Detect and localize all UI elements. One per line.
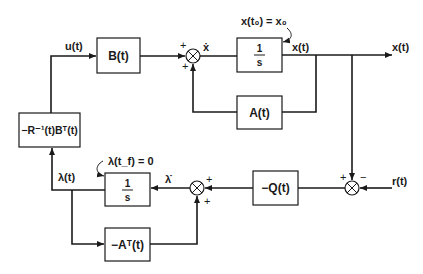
label-r: r(t) (392, 175, 408, 187)
block-Q-label: −Q(t) (261, 181, 289, 195)
wire-lambda-to-AT (72, 190, 104, 244)
label-x-inner: x(t) (292, 41, 309, 53)
label-xdot: ẋ (203, 41, 210, 53)
initial-condition-pointer (283, 28, 291, 42)
annotation-final-condition: λ(t_f) = 0 (108, 155, 154, 167)
annotation-initial-condition: x(t₀) = x₀ (241, 15, 287, 27)
block-AT-label: −Aᵀ(t) (111, 238, 144, 252)
wire-x-to-A (282, 55, 316, 112)
block-gain-label: −R⁻¹(t)Bᵀ(t) (21, 124, 77, 136)
sign-error-right: − (360, 171, 366, 183)
sign-costate-right: + (206, 173, 212, 185)
sign-top-left: + (180, 39, 186, 51)
label-lambda: λ(t) (58, 171, 75, 183)
sign-costate-bottom: + (204, 195, 210, 207)
costate-integrator-numerator: 1 (125, 178, 131, 189)
summing-junction-error (345, 181, 359, 195)
wire-gain-to-B (51, 56, 96, 113)
sign-error-top: + (340, 171, 346, 183)
block-A-label: A(t) (249, 106, 270, 120)
wire-AT-to-costate-sum (150, 196, 197, 244)
final-condition-pointer (97, 161, 104, 176)
summing-junction-costate (190, 181, 204, 195)
sign-top-bottom: + (182, 60, 188, 72)
label-lambdadot: λ̇ (165, 173, 172, 185)
costate-integrator-denominator: s (125, 192, 131, 203)
block-B-label: B(t) (108, 49, 129, 63)
wire-A-to-sum (193, 64, 237, 112)
state-integrator-denominator: s (257, 57, 263, 68)
block-diagram: u(t) B(t) + + ẋ 1 s x(t₀) = x₀ x(t) x(t)… (0, 0, 423, 274)
label-u: u(t) (65, 40, 83, 52)
label-x-output: x(t) (392, 41, 409, 53)
state-integrator-numerator: 1 (257, 43, 263, 54)
